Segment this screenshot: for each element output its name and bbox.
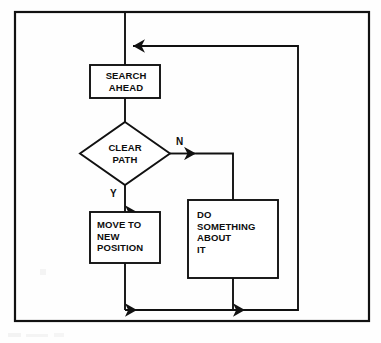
flowchart-figure: SEARCH AHEAD CLEAR PATH MOVE TO NEW POSI… xyxy=(0,0,381,343)
node-move-to-new-position xyxy=(90,212,160,263)
node-do-something-about-it xyxy=(188,200,278,278)
flowchart-canvas xyxy=(0,0,381,343)
node-search-ahead xyxy=(90,65,160,98)
